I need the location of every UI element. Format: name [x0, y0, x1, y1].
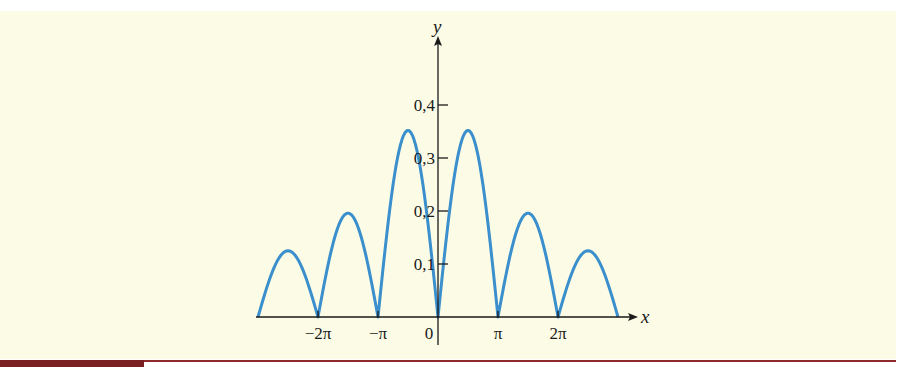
y-axis-label: y — [431, 16, 442, 37]
x-ticks: −2π−π0π2π — [305, 311, 567, 343]
x-tick-label: 0 — [425, 324, 434, 343]
y-tick-label: 0,2 — [414, 202, 435, 221]
x-tick-label: π — [494, 324, 503, 343]
footer-accent-bar — [0, 360, 144, 367]
chart-plot: x y −2π−π0π2π 0,10,20,30,4 — [0, 0, 901, 367]
y-tick-label: 0,3 — [414, 149, 435, 168]
x-tick-label: 2π — [549, 324, 567, 343]
y-tick-label: 0,4 — [414, 96, 436, 115]
x-tick-label: −2π — [305, 324, 332, 343]
x-tick-label: −π — [369, 324, 388, 343]
x-axis-label: x — [640, 306, 650, 327]
y-tick-label: 0,1 — [414, 255, 435, 274]
